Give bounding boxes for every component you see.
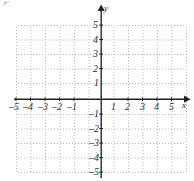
x-tick-label-1: 1 [111, 102, 116, 112]
y-tick-label-1: 1 [94, 78, 99, 88]
x-tick-label-neg5: –5 [9, 102, 19, 112]
x-tick-label-neg4: –4 [23, 102, 33, 112]
y-tick-label-neg2: –2 [89, 124, 99, 134]
x-tick-label-5: 5 [169, 102, 174, 112]
x-tick-label-2: 2 [125, 102, 130, 112]
y-tick-label-neg4: –4 [89, 153, 99, 163]
coordinate-grid-figure: –5 –4 –3 –2 –1 1 2 3 4 5 5 4 3 2 1 –1 –2… [0, 0, 194, 181]
y-tick-label-4: 4 [93, 35, 98, 45]
y-tick-label-neg1: –1 [89, 109, 99, 119]
x-tick-label-neg1: –1 [67, 102, 77, 112]
y-tick-label-3: 3 [93, 49, 98, 59]
y-tick-label-5: 5 [93, 20, 98, 30]
x-tick-label-neg3: –3 [38, 102, 48, 112]
y-tick-label-neg5: –5 [89, 167, 99, 177]
y-tick-label-neg3: –3 [89, 138, 99, 148]
y-tick-label-2: 2 [93, 64, 98, 74]
x-tick-label-3: 3 [140, 102, 145, 112]
x-axis-label: x [182, 101, 186, 110]
y-axis-label: y [104, 4, 108, 13]
x-tick-label-neg2: –2 [52, 102, 62, 112]
x-tick-label-4: 4 [154, 102, 159, 112]
